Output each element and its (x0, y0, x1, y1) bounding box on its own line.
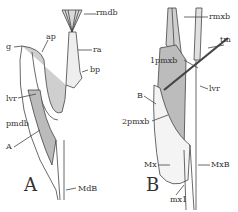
label-A-small: A (6, 143, 12, 151)
label-pmdb: pmdb (6, 120, 29, 128)
label-1pmxb: 1pmxb (150, 57, 177, 65)
label-mx1: mx1 (170, 196, 187, 204)
label-lvr-b: lvr (209, 85, 220, 93)
panel-letter-a: A (24, 176, 37, 194)
label-g: g (6, 43, 11, 51)
panel-letter-b: B (146, 176, 159, 194)
label-B-small: B (137, 92, 143, 100)
label-ap: ap (46, 33, 56, 41)
label-MxB: MxB (211, 161, 230, 169)
label-rmxb: rmxb (209, 13, 230, 21)
label-MdB: MdB (78, 185, 97, 193)
label-ra: ra (93, 46, 102, 54)
label-bp: bp (90, 66, 100, 74)
label-rmdb: rmdb (96, 9, 118, 17)
label-tm: tm (220, 36, 231, 44)
label-Mx: Mx (144, 161, 157, 169)
label-2pmxb: 2pmxb (122, 118, 149, 126)
label-lvr: lvr (6, 95, 17, 103)
